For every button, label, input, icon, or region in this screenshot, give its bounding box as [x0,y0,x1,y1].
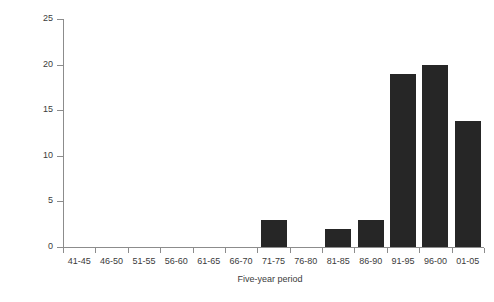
bar [325,229,351,247]
bar [455,121,481,247]
x-axis-tick [95,248,96,253]
x-axis-tick [484,248,485,253]
x-axis-line [63,247,484,248]
x-axis-tick [257,248,258,253]
x-axis-tick-label: 41-45 [63,256,95,266]
y-axis-tick-label: 10 [43,150,53,160]
x-axis-tick-label: 91-95 [387,256,419,266]
x-axis-tick [128,248,129,253]
x-axis-tick [225,248,226,253]
y-axis-tick-label: 5 [48,195,53,205]
x-axis-tick [322,248,323,253]
x-axis-tick-label: 96-00 [419,256,451,266]
bar [261,220,287,247]
x-axis-tick-label: 86-90 [354,256,386,266]
x-axis-tick-label: 01-05 [452,256,484,266]
x-axis-tick [387,248,388,253]
y-axis-tick-label: 15 [43,104,53,114]
bar [390,74,416,247]
x-axis-tick [160,248,161,253]
bar [358,220,384,247]
bar [422,65,448,247]
x-axis-tick-label: 61-65 [193,256,225,266]
y-axis-tick-label: 0 [48,241,53,251]
y-axis-tick-label: 20 [43,59,53,69]
x-axis-tick-label: 81-85 [322,256,354,266]
x-axis-tick [354,248,355,253]
x-axis-tick [63,248,64,253]
x-axis-tick-label: 66-70 [225,256,257,266]
y-axis-title: Number of birds [2,0,12,92]
x-axis-tick-label: 46-50 [95,256,127,266]
x-axis-tick [193,248,194,253]
bar-chart-figure: Number of birds 0510152025 41-4546-5051-… [0,0,494,302]
x-axis-tick-label: 56-60 [160,256,192,266]
x-axis-title: Five-year period [0,274,494,284]
x-axis-tick [452,248,453,253]
plot-area [63,19,484,247]
x-axis-tick [290,248,291,253]
x-axis-tick-label: 51-55 [128,256,160,266]
x-axis-tick-label: 76-80 [290,256,322,266]
x-axis-tick [419,248,420,253]
x-axis-tick-label: 71-75 [257,256,289,266]
y-axis-tick-label: 25 [43,13,53,23]
